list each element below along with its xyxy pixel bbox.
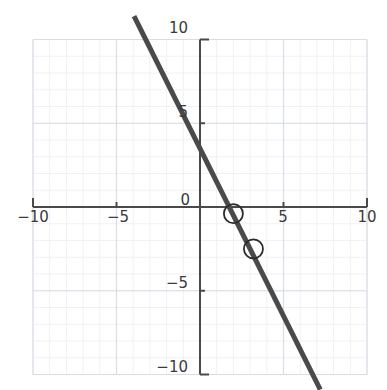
chart-background xyxy=(0,0,387,390)
y-tick-label-pos5: 5 xyxy=(178,103,188,121)
coordinate-plane-chart: −10 −5 0 5 10 10 5 −5 −10 xyxy=(0,0,387,390)
x-tick-label-neg5: −5 xyxy=(107,208,129,226)
x-tick-label-pos5: 5 xyxy=(278,208,288,226)
x-tick-label-neg10: −10 xyxy=(17,208,49,226)
graph-figure: −10 −5 0 5 10 10 5 −5 −10 xyxy=(0,0,387,390)
x-tick-label-zero: 0 xyxy=(180,191,190,209)
y-tick-label-neg5: −5 xyxy=(166,274,188,292)
x-tick-label-pos10: 10 xyxy=(357,208,376,226)
y-tick-label-neg10: −10 xyxy=(156,358,188,376)
y-tick-label-pos10: 10 xyxy=(169,19,188,37)
